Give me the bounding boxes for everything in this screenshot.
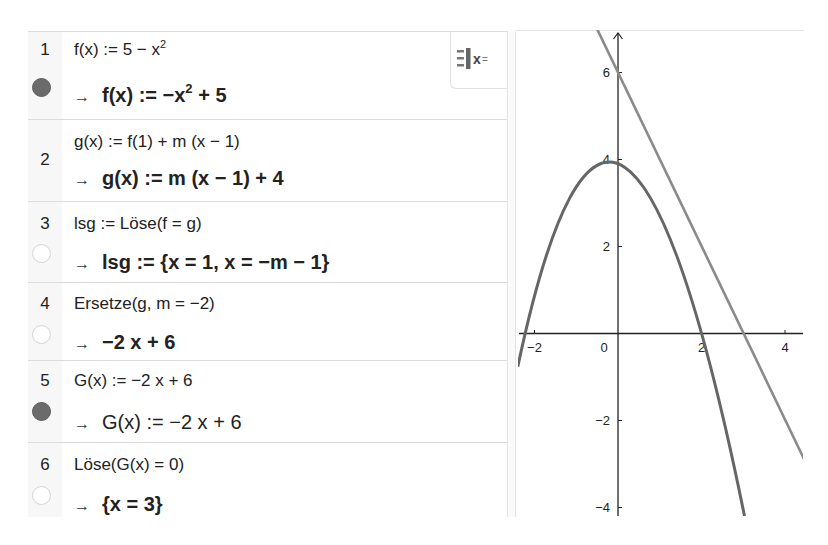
- row-input[interactable]: Löse(G(x) = 0): [74, 455, 184, 475]
- visibility-toggle-on[interactable]: [32, 78, 51, 97]
- algebra-row-1[interactable]: 1 f(x) := 5 − x2 →f(x) := −x2 + 5 x =: [28, 32, 507, 120]
- row-number: 4: [28, 294, 62, 314]
- row-input[interactable]: f(x) := 5 − x2: [74, 40, 166, 60]
- parabola-f-curve[interactable]: [518, 162, 745, 516]
- row-input[interactable]: g(x) := f(1) + m (x − 1): [74, 132, 240, 152]
- y-tick-label: 2: [603, 239, 610, 254]
- algebra-row-3[interactable]: 3 lsg := Löse(f = g) →lsg := {x = 1, x =…: [28, 202, 507, 283]
- visibility-toggle-off[interactable]: [32, 325, 51, 344]
- row-number: 2: [28, 150, 62, 170]
- row-number: 5: [28, 371, 62, 391]
- row-output: →G(x) := −2 x + 6: [74, 411, 242, 434]
- row-number: 1: [28, 40, 62, 60]
- row-input[interactable]: Ersetze(g, m = −2): [74, 294, 215, 314]
- algebra-view: 1 f(x) := 5 − x2 →f(x) := −x2 + 5 x = 2 …: [28, 31, 507, 517]
- output-arrow-icon: →: [74, 255, 90, 272]
- view-splitter[interactable]: [507, 31, 516, 517]
- y-tick-label: 4: [603, 152, 610, 167]
- algebra-description-toggle-button[interactable]: x =: [450, 32, 507, 89]
- x-tick-label: 0: [600, 340, 607, 355]
- y-tick-label: −2: [595, 413, 610, 428]
- algebra-row-5[interactable]: 5 G(x) := −2 x + 6 →G(x) := −2 x + 6: [28, 361, 507, 443]
- x-axis: −2 0 2 4: [519, 330, 803, 355]
- row-output: →f(x) := −x2 + 5: [74, 84, 227, 107]
- row-number: 6: [28, 455, 62, 475]
- y-tick-label: 6: [603, 65, 610, 80]
- output-arrow-icon: →: [74, 335, 90, 352]
- row-output: →−2 x + 6: [74, 331, 175, 354]
- row-output: →{x = 3}: [74, 493, 163, 516]
- row-output: →g(x) := m (x − 1) + 4: [74, 167, 284, 190]
- graphics-view[interactable]: −2 0 2 4 6 4 2 −2 −4: [516, 30, 828, 517]
- algebra-description-toggle-icon: x =: [451, 32, 508, 89]
- output-arrow-icon: →: [74, 497, 90, 514]
- algebra-row-6[interactable]: 6 Löse(G(x) = 0) →{x = 3}: [28, 443, 507, 517]
- algebra-row-2[interactable]: 2 g(x) := f(1) + m (x − 1) →g(x) := m (x…: [28, 120, 507, 202]
- visibility-toggle-on[interactable]: [32, 402, 51, 421]
- svg-text:x: x: [473, 51, 481, 67]
- y-tick-label: −4: [595, 500, 610, 515]
- svg-text:=: =: [482, 54, 488, 65]
- x-tick-label: −2: [527, 340, 542, 355]
- line-G[interactable]: [597, 30, 804, 459]
- row-output: →lsg := {x = 1, x = −m − 1}: [74, 251, 329, 274]
- output-arrow-icon: →: [74, 171, 90, 188]
- row-input[interactable]: lsg := Löse(f = g): [74, 214, 202, 234]
- output-arrow-icon: →: [74, 415, 90, 432]
- row-input[interactable]: G(x) := −2 x + 6: [74, 371, 193, 391]
- x-tick-label: 4: [781, 340, 788, 355]
- y-axis: 6 4 2 −2 −4: [595, 33, 622, 516]
- visibility-toggle-off[interactable]: [32, 486, 51, 505]
- algebra-row-4[interactable]: 4 Ersetze(g, m = −2) →−2 x + 6: [28, 283, 507, 361]
- row-number: 3: [28, 214, 62, 234]
- output-arrow-icon: →: [74, 88, 90, 105]
- visibility-toggle-off[interactable]: [32, 244, 51, 263]
- graph-canvas[interactable]: −2 0 2 4 6 4 2 −2 −4: [516, 30, 828, 517]
